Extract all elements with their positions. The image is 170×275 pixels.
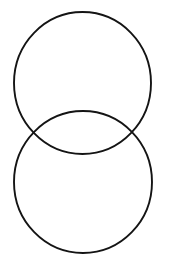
- diagram-canvas: Two overlapping circles: [0, 0, 170, 275]
- overlapping-circles-svg: [0, 0, 170, 275]
- canvas-background: [0, 0, 170, 275]
